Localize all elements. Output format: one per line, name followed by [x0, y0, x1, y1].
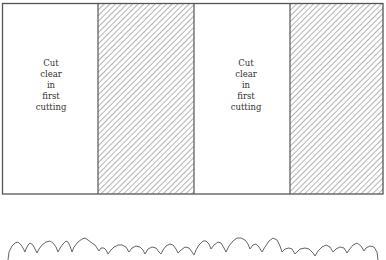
strip-label-cleared-2: Cut clear in first cutting [216, 58, 276, 113]
strip-cutting-diagram: Cut clear in first cutting Cut clear in … [0, 0, 386, 260]
label-line: first [216, 91, 276, 102]
label-line: cutting [216, 102, 276, 113]
strip-standing-2 [290, 4, 383, 195]
label-line: clear [216, 69, 276, 80]
label-line: Cut [21, 58, 81, 69]
label-line: in [216, 80, 276, 91]
label-line: Cut [216, 58, 276, 69]
strip-label-cleared-1: Cut clear in first cutting [21, 58, 81, 113]
strip-standing-1 [98, 4, 194, 195]
label-line: cutting [21, 102, 81, 113]
tree-line-profile [8, 238, 378, 260]
label-line: in [21, 80, 81, 91]
diagram-canvas [0, 0, 386, 260]
label-line: clear [21, 69, 81, 80]
label-line: first [21, 91, 81, 102]
